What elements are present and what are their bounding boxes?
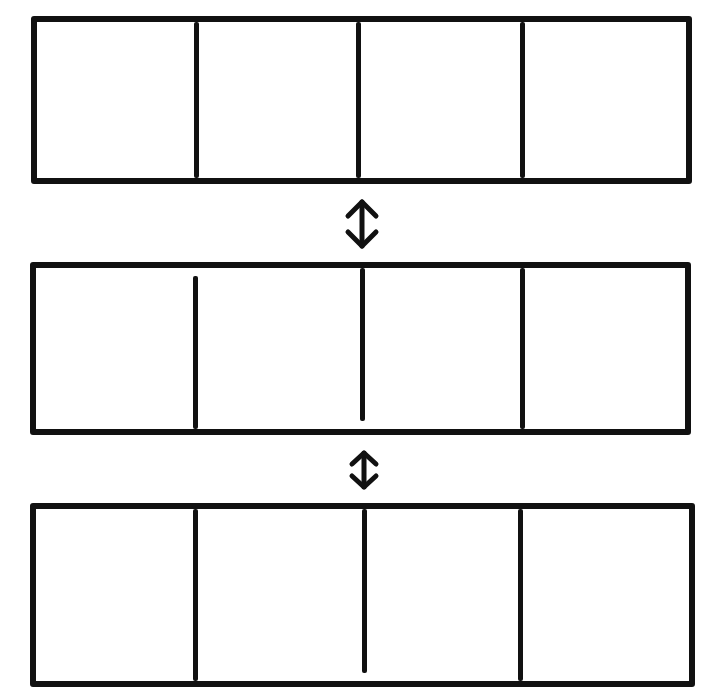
row-1-divider-3 <box>520 22 525 178</box>
row-3-divider-1 <box>193 509 198 681</box>
row-2-divider-3 <box>520 268 525 429</box>
box-row-3 <box>30 503 695 687</box>
box-row-2 <box>30 262 691 435</box>
row-3-divider-3 <box>518 509 523 681</box>
row-3-divider-2 <box>362 509 367 673</box>
row-1-divider-1 <box>194 22 199 178</box>
row-2-divider-2 <box>360 268 365 421</box>
row-1-divider-2 <box>356 22 361 178</box>
double-arrow-icon <box>344 448 384 492</box>
box-row-1 <box>31 16 692 184</box>
row-2-divider-1 <box>193 276 198 429</box>
double-arrow-icon <box>340 196 384 252</box>
